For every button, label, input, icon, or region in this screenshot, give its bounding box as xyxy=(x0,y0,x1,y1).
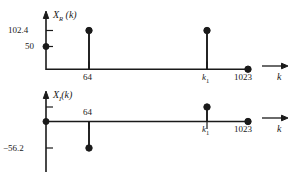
sample-marker-0-bottom xyxy=(43,119,49,125)
x-axis-title-bottom: k xyxy=(277,123,281,134)
x-tick-label-1023-bottom: 1023 xyxy=(234,124,252,134)
y-axis-arrowhead-top xyxy=(43,11,48,19)
y-tick-label-50: 50 xyxy=(25,41,34,51)
y-axis-title-real-tail: (k) xyxy=(66,9,77,20)
y-tick-label-negative-56-2: −56.2 xyxy=(3,143,24,153)
chart-imaginary-part xyxy=(0,86,302,176)
sample-marker-64-bottom xyxy=(86,145,92,151)
x-tick-label-64-top: 64 xyxy=(83,72,92,82)
x-tick-label-k1-bottom: k1 xyxy=(202,124,209,136)
sample-marker-k1-bottom xyxy=(204,104,210,110)
figure-stem-plots-real-imaginary-dft: XR (k) 102.4 50 64 k1 1023 k xyxy=(0,0,302,176)
chart-imaginary-part-canvas xyxy=(0,86,302,176)
y-axis-title-real: XR (k) xyxy=(53,9,77,22)
sample-marker-64-top xyxy=(86,27,92,33)
x-axis-title-top: k xyxy=(277,71,281,82)
sample-marker-k1-top xyxy=(204,27,210,33)
x-tick-label-k1-top: k1 xyxy=(202,72,209,84)
y-axis-title-imaginary-tail: (k) xyxy=(61,89,72,100)
chart-real-part-canvas xyxy=(0,0,302,90)
sample-marker-0-top xyxy=(43,44,49,50)
x-tick-label-1023-top: 1023 xyxy=(234,72,252,82)
y-axis-title-imaginary: XI(k) xyxy=(53,89,72,102)
chart-real-part xyxy=(0,0,302,90)
x-tick-label-64-bottom: 64 xyxy=(83,107,92,117)
y-axis-arrowhead-bottom xyxy=(43,91,48,99)
x-axis-arrow-head-top xyxy=(282,63,289,69)
x-axis-arrow-head-bottom xyxy=(282,115,289,121)
y-tick-label-102-4: 102.4 xyxy=(8,25,28,35)
